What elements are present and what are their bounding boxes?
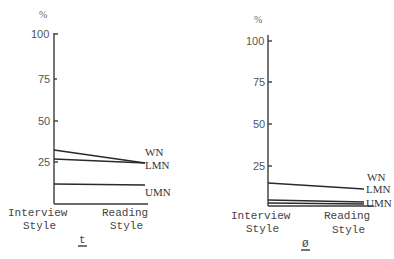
tick-25: 25 — [38, 156, 50, 168]
tick-50: 50 — [38, 115, 50, 127]
tick-75: 75 — [253, 76, 265, 88]
x-cat-reading-1: Reading — [324, 210, 370, 222]
tick-100: 100 — [246, 35, 264, 47]
label-wn: WN — [367, 171, 385, 183]
series-wn-line — [268, 183, 364, 189]
chart-caption: t — [79, 234, 86, 246]
chart-t: % 100 75 50 25 WN LMN UMN Interview Styl… — [8, 9, 171, 246]
x-cat-reading-1: Reading — [102, 207, 148, 219]
tick-75: 75 — [38, 73, 50, 85]
chart-caption: Ø — [302, 238, 309, 250]
label-lmn: LMN — [145, 159, 170, 171]
chart-slashed-o: % 100 75 50 25 WN LMN UMN Interview Styl… — [231, 14, 392, 250]
tick-50: 50 — [253, 118, 265, 130]
label-lmn: LMN — [366, 183, 391, 195]
x-cat-interview-1: Interview — [8, 207, 68, 219]
y-axis-label: % — [254, 14, 262, 25]
series-lmn-line — [268, 200, 364, 202]
label-umn: UMN — [366, 197, 392, 209]
figure: % 100 75 50 25 WN LMN UMN Interview Styl… — [0, 0, 394, 259]
tick-25: 25 — [253, 160, 265, 172]
x-cat-interview-1: Interview — [231, 210, 291, 222]
x-cat-reading-2: Style — [332, 224, 365, 236]
x-cat-reading-2: Style — [110, 220, 143, 232]
y-axis-label: % — [39, 9, 47, 20]
label-wn: WN — [145, 146, 163, 158]
tick-100: 100 — [31, 28, 49, 40]
series-umn-line — [268, 203, 364, 204]
label-umn: UMN — [145, 186, 171, 198]
series-umn-line — [54, 184, 145, 185]
x-cat-interview-2: Style — [246, 223, 279, 235]
x-cat-interview-2: Style — [23, 220, 56, 232]
